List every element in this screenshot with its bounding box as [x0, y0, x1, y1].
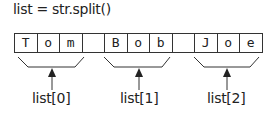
bracket-0 — [18, 57, 84, 67]
label-list-2: list[2] — [207, 90, 245, 106]
arrow-up-icon — [223, 68, 231, 77]
arrow-up-icon — [48, 68, 56, 77]
label-list-1: list[1] — [120, 90, 158, 106]
bracket-1 — [104, 57, 170, 67]
bracket-2 — [194, 57, 259, 67]
label-list-0: list[0] — [32, 90, 70, 106]
arrow-up-icon — [135, 68, 143, 77]
